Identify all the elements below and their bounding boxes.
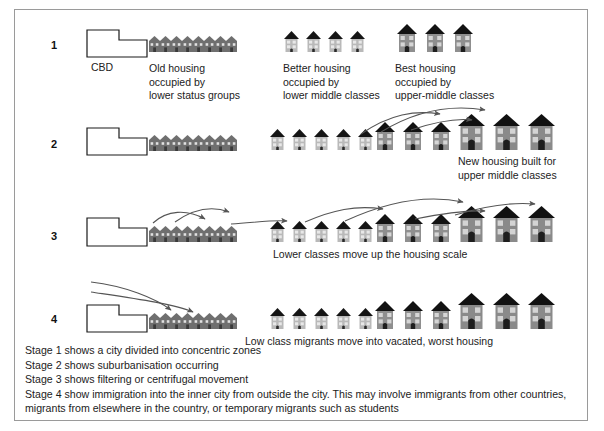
stage-2-terrace <box>149 135 237 151</box>
note-line-2: Stage 2 shows suburbanisation occurring <box>25 358 581 373</box>
note-line-1: Stage 1 shows a city divided into concen… <box>25 343 581 358</box>
stage-3-large-houses <box>458 206 555 242</box>
stage-1-small-houses <box>284 31 365 52</box>
stage-1-medium-houses <box>397 24 473 52</box>
note-line-4: Stage 4 show immigration into the inner … <box>25 387 581 416</box>
stage-3-cbd <box>87 218 147 246</box>
stage-4-immigration-arrows <box>91 282 193 312</box>
stage-4-terrace <box>149 313 237 329</box>
stage-number-3: 3 <box>51 230 57 242</box>
diagram-panel: 1 2 3 4 <box>14 9 588 421</box>
stage-4-large-houses <box>458 293 555 329</box>
caption-new-housing: New housing built for upper middle class… <box>458 155 557 182</box>
stage-3-terrace <box>149 226 237 242</box>
stage-number-4: 4 <box>51 313 57 325</box>
stage-4-small-houses <box>270 308 373 329</box>
caption-lower-classes: Lower classes move up the housing scale <box>273 248 467 262</box>
stage-number-2: 2 <box>51 138 57 150</box>
caption-best-housing: Best housing occupied by upper-middle cl… <box>395 62 494 103</box>
stage-notes: Stage 1 shows a city divided into concen… <box>25 343 581 416</box>
stage-2-medium-houses <box>375 122 451 150</box>
stage-2-small-houses <box>270 129 373 150</box>
stage-3-small-houses <box>270 221 373 242</box>
stage-4-cbd <box>87 305 147 332</box>
caption-old-housing: Old housing occupied by lower status gro… <box>149 62 240 103</box>
caption-better-housing: Better housing occupied by lower middle … <box>283 62 380 103</box>
cbd-label: CBD <box>91 61 113 73</box>
stage-2-cbd <box>87 128 147 155</box>
stage-1-terrace <box>149 36 237 52</box>
stage-3-medium-houses <box>375 214 451 242</box>
stage-3-filtering-arrows <box>153 199 535 224</box>
stage-1-cbd <box>87 30 147 57</box>
stage-number-1: 1 <box>51 39 57 51</box>
note-line-3: Stage 3 shows filtering or centrifugal m… <box>25 372 581 387</box>
stage-4-medium-houses <box>375 301 451 329</box>
stage-2-large-houses <box>458 114 555 150</box>
stage-2-migration-arrows <box>361 108 485 134</box>
